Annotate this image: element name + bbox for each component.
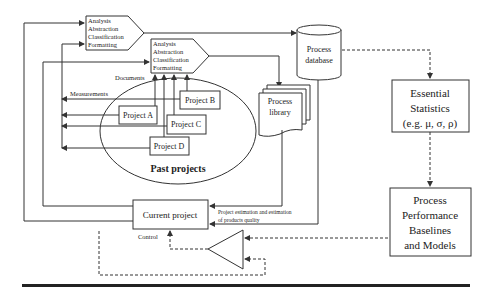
project-a-label: Project A bbox=[123, 111, 153, 120]
stats-label-2: Statistics bbox=[410, 102, 450, 114]
project-c-label: Project C bbox=[171, 120, 201, 129]
documents-label: Documents bbox=[115, 74, 145, 81]
project-b-label: Project B bbox=[185, 96, 215, 105]
baselines-label-3: Baselines bbox=[409, 224, 451, 236]
estimation-label-1: Project estimation and estimation bbox=[218, 209, 292, 215]
current-project-box: Current project bbox=[133, 200, 208, 229]
project-c: Project C bbox=[167, 115, 206, 134]
formatting-label: Formatting bbox=[88, 41, 118, 48]
past-projects-title: Past projects bbox=[150, 163, 205, 174]
project-a: Project A bbox=[119, 106, 157, 124]
stats-label-1: Essential bbox=[410, 87, 450, 99]
classification-label: Classification bbox=[153, 56, 189, 63]
library-label-2: library bbox=[269, 108, 290, 117]
process-diagram: Analysis Abstraction Classification Form… bbox=[0, 0, 490, 295]
analysis-label: Analysis bbox=[153, 40, 176, 47]
stats-label-3: (e.g. μ, σ, ρ) bbox=[403, 117, 458, 130]
essential-statistics-box: Essential Statistics (e.g. μ, σ, ρ) bbox=[392, 80, 469, 132]
abstraction-label: Abstraction bbox=[88, 25, 119, 32]
analysis-box-2: Analysis Abstraction Classification Form… bbox=[151, 39, 209, 73]
estimation-label-2: of products quality bbox=[218, 217, 260, 223]
measurements-label: Measurements bbox=[70, 90, 108, 97]
analysis-label: Analysis bbox=[88, 17, 111, 24]
project-b: Project B bbox=[180, 91, 220, 109]
bottom-rule bbox=[22, 284, 470, 287]
process-database: Process database bbox=[297, 25, 341, 80]
baselines-label-1: Process bbox=[413, 194, 447, 206]
analysis-box-1: Analysis Abstraction Classification Form… bbox=[86, 16, 144, 50]
project-d: Project D bbox=[150, 137, 189, 155]
library-label-1: Process bbox=[268, 97, 292, 106]
database-label-2: database bbox=[305, 56, 333, 65]
controller-triangle bbox=[208, 230, 243, 269]
current-project-label: Current project bbox=[143, 210, 198, 220]
database-label-1: Process bbox=[307, 45, 331, 54]
process-library: Process library bbox=[259, 85, 310, 136]
formatting-label: Formatting bbox=[153, 64, 183, 71]
baselines-label-2: Performance bbox=[402, 209, 458, 221]
project-d-label: Project D bbox=[154, 142, 185, 151]
control-label: Control bbox=[138, 233, 158, 240]
baselines-box: Process Performance Baselines and Models bbox=[390, 188, 471, 256]
classification-label: Classification bbox=[88, 33, 124, 40]
abstraction-label: Abstraction bbox=[153, 48, 184, 55]
baselines-label-4: and Models bbox=[404, 239, 456, 251]
